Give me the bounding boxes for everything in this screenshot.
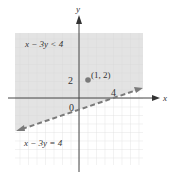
y-axis-label: y — [75, 4, 80, 14]
test-point-label: (1, 2) — [91, 70, 111, 80]
equation-label: x − 3y = 4 — [23, 138, 63, 148]
x-axis-label: x — [162, 93, 167, 103]
tick-label-y-2: 2 — [68, 75, 73, 86]
origin-label: 0 — [69, 102, 74, 113]
x-axis-arrow-icon — [152, 95, 160, 101]
tick-label-x-4: 4 — [111, 87, 116, 98]
test-point — [85, 77, 91, 83]
inequality-label: x − 3y < 4 — [24, 39, 64, 49]
inequality-graph: x y 2 4 0 (1, 2) x − 3y < 4 x − 3y = 4 — [0, 0, 175, 184]
y-axis-arrow-icon — [76, 15, 82, 24]
